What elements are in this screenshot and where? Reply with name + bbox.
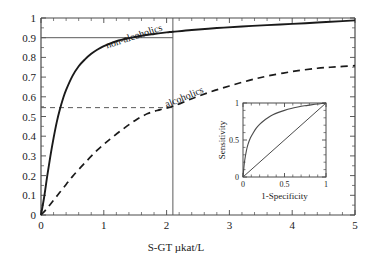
inset-xaxis-title: 1-Specificity [261,191,308,201]
curve-label-alcoholics: alcoholics [163,84,205,109]
x-tick-label: 1 [101,219,107,231]
inset-y-tick-label: 1 [235,99,239,108]
y-tick-label: 0.1 [22,189,36,201]
y-tick-label: 0.3 [22,150,36,162]
curve-label-non-alcoholics-text: non-alcoholics [104,22,163,51]
inset-yaxis-title: Sensitivity [217,120,227,159]
x-tick-label: 3 [227,219,233,231]
inset-y-tick-label: 0.5 [229,136,239,145]
main-xaxis-title: S-GT µkat/L [148,241,205,253]
y-tick-label: 0.8 [22,51,36,63]
y-tick-label: 0.9 [22,32,36,44]
curve-label-non-alcoholics: non-alcoholics [104,22,163,51]
main-chart-svg: 00.10.20.30.40.50.60.70.80.91012345S-GT … [0,0,376,261]
x-tick-label: 2 [164,219,170,231]
y-tick-label: 0.7 [22,71,36,83]
y-tick-label: 0 [31,209,37,221]
x-tick-label: 4 [289,219,295,231]
y-tick-label: 1 [31,12,37,24]
x-tick-label: 0 [38,219,44,231]
curve-label-alcoholics-text: alcoholics [163,84,205,109]
y-tick-label: 0.2 [22,170,36,182]
inset-x-tick-label: 0 [241,180,245,189]
y-tick-label: 0.5 [22,111,36,123]
roc-figure: 00.10.20.30.40.50.60.70.80.91012345S-GT … [0,0,376,261]
inset-plot-group: 00.5100.511-SpecificitySensitivity [216,95,335,207]
y-tick-label: 0.6 [22,91,36,103]
inset-x-tick-label: 1 [324,180,328,189]
y-tick-label: 0.4 [22,130,36,142]
x-tick-label: 5 [352,219,358,231]
inset-y-tick-label: 0 [235,173,239,182]
inset-x-tick-label: 0.5 [280,180,290,189]
